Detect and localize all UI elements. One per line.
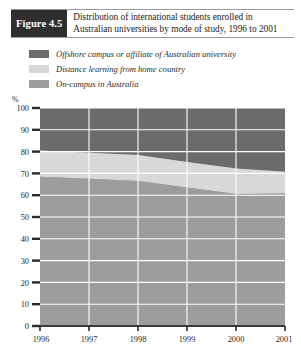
y-tick-90: 90 <box>21 126 29 135</box>
x-tick-1996: 1996 <box>33 335 50 344</box>
chart-legend: Offshore campus or affiliate of Australi… <box>29 47 291 92</box>
area-oncampus <box>40 177 285 326</box>
y-axis-tick-labels: 100 90 80 70 60 50 40 30 20 10 0 <box>16 104 29 331</box>
figure-title-line-1: Distribution of international students e… <box>73 12 292 24</box>
y-tick-80: 80 <box>21 148 29 157</box>
y-tick-10: 10 <box>21 300 29 309</box>
legend-swatch-offshore <box>29 50 49 58</box>
x-tick-2000: 2000 <box>228 335 245 344</box>
legend-item-oncampus: On-campus in Australia <box>29 77 291 91</box>
figure-page: Figure 4.5 Distribution of international… <box>0 0 301 357</box>
y-axis-ticks <box>32 108 40 326</box>
legend-label-oncampus: On-campus in Australia <box>56 79 138 89</box>
y-tick-50: 50 <box>21 213 29 222</box>
x-tick-1998: 1998 <box>130 335 147 344</box>
legend-swatch-distance <box>29 65 49 73</box>
x-tick-1999: 1999 <box>179 335 196 344</box>
x-axis-tick-labels: 1996 1997 1998 1999 2000 2001 <box>33 335 293 344</box>
y-tick-0: 0 <box>25 322 29 331</box>
x-tick-1997: 1997 <box>81 335 98 344</box>
x-tick-2001: 2001 <box>276 335 293 344</box>
figure-number-tag: Figure 4.5 <box>11 10 67 37</box>
y-tick-20: 20 <box>21 279 29 288</box>
chart-area: % <box>0 92 301 352</box>
y-tick-60: 60 <box>21 191 29 200</box>
legend-label-offshore: Offshore campus or affiliate of Australi… <box>56 49 236 59</box>
legend-label-distance: Distance learning from home country <box>56 64 185 74</box>
legend-item-offshore: Offshore campus or affiliate of Australi… <box>29 47 291 61</box>
y-tick-30: 30 <box>21 257 29 266</box>
y-tick-70: 70 <box>21 170 29 179</box>
page-title: Distribution of international students e… <box>67 10 294 37</box>
figure-title-line-2: Australian universities by mode of study… <box>73 24 292 36</box>
stacked-area-chart: 100 90 80 70 60 50 40 30 20 10 0 <box>0 92 301 352</box>
legend-swatch-oncampus <box>29 80 49 88</box>
y-tick-40: 40 <box>21 235 29 244</box>
figure-title-block: Figure 4.5 Distribution of international… <box>11 9 294 38</box>
y-tick-100: 100 <box>16 104 29 113</box>
legend-item-distance: Distance learning from home country <box>29 62 291 76</box>
